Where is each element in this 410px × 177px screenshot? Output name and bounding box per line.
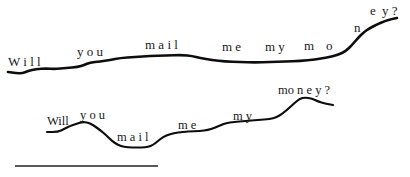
contour-1-group: W i l ly o um a i lm em ymoney ? [8,3,398,73]
contour-2-word: m y [233,109,253,123]
contour-1-word: y o u [77,44,104,59]
contour-1-word: m [304,38,314,53]
contour-1-word: o [326,38,333,53]
contour-2-word: Will [47,114,69,128]
contour-1-word: n [354,20,361,35]
contour-2-word: m a i l [117,130,149,144]
contour-1-word: m y [265,39,285,54]
contour-2-group: Willy o um a i lm em ymo n e y ? [47,83,333,148]
contour-2-word: m e [178,118,197,132]
contour-2-word: y o u [80,108,106,122]
intonation-contour-figure: W i l ly o um a i lm em ymoney ? Willy o… [0,0,410,177]
contour-1-word: W i l l [8,54,41,69]
contour-2-word: mo n e y ? [278,83,331,97]
contour-2-words: Willy o um a i lm em ymo n e y ? [47,83,331,144]
contour-1-word: m a i l [145,37,178,52]
contour-1-word: e [370,3,376,18]
contour-1-word: m e [222,39,241,54]
pitch-contour-1 [8,18,397,73]
contour-1-word: y ? [382,3,398,18]
